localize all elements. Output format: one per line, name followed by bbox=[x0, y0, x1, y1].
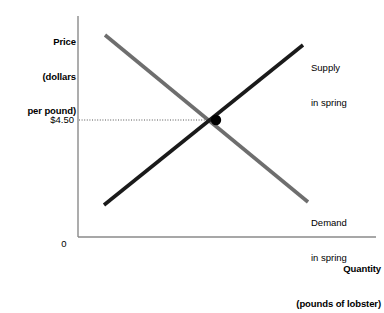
y-tick-label-price: $4.50 bbox=[20, 114, 74, 125]
x-axis-title-line-2: (pounds of lobster) bbox=[215, 298, 381, 310]
supply-curve bbox=[104, 45, 303, 205]
y-axis-title-line-2: (dollars bbox=[4, 71, 76, 83]
demand-curve-label: Demand in spring bbox=[311, 194, 383, 286]
demand-curve bbox=[105, 35, 308, 202]
supply-label-line-2: in spring bbox=[311, 97, 383, 109]
supply-curve-label: Supply in spring bbox=[311, 39, 383, 131]
supply-label-line-1: Supply bbox=[311, 62, 383, 74]
equilibrium-point-marker bbox=[211, 115, 221, 125]
origin-label: 0 bbox=[58, 238, 70, 249]
y-axis-title-line-1: Price bbox=[4, 36, 76, 48]
demand-label-line-1: Demand bbox=[311, 217, 383, 229]
demand-label-line-2: in spring bbox=[311, 252, 383, 264]
